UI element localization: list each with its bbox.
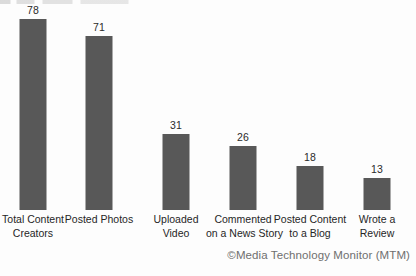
bar-rect[interactable] [297,166,324,210]
plot-area: 78 71 31 26 18 13 [0,0,416,210]
x-axis-label: Posted Content to a Blog [273,212,347,240]
x-axis-label: Commented on a News Story [206,212,280,240]
x-axis-label: Posted Photos [62,212,136,226]
bar-value-label: 13 [371,163,383,175]
x-axis-label-line: Uploaded [139,212,213,226]
bar-value-label: 78 [27,4,39,16]
bar-chart: 78 71 31 26 18 13 Total Content Creators [0,0,416,276]
bar-value-label: 26 [237,131,249,143]
bar-value-label: 18 [304,151,316,163]
x-axis-label-line: Video [139,226,213,240]
x-axis-label-line: on a News Story [206,226,280,240]
x-axis-label: Wrote a Review [340,212,414,240]
bar-rect[interactable] [20,19,47,210]
x-axis-labels: Total Content Creators Posted Photos Upl… [0,212,416,248]
x-axis-label-line: Total Content [0,212,70,226]
bar-group: 31 [143,0,209,210]
bar-value-label: 71 [93,21,105,33]
x-axis-label-line: Creators [0,226,70,240]
x-axis-label-line: Posted Content [273,212,347,226]
bar-group: 26 [210,0,276,210]
bar-group: 18 [277,0,343,210]
bar-rect[interactable] [364,178,391,210]
bar-group: 71 [66,0,132,210]
attribution-text: ©Media Technology Monitor (MTM) [227,249,410,261]
x-axis-label-line: to a Blog [273,226,347,240]
x-axis-label-line: Posted Photos [62,212,136,226]
bar-rect[interactable] [230,146,257,210]
x-axis-label: Total Content Creators [0,212,70,240]
x-axis-label-line: Wrote a [340,212,414,226]
bar-group: 13 [344,0,410,210]
bar-group: 78 [0,0,66,210]
x-axis-label-line: Review [340,226,414,240]
bar-rect[interactable] [86,36,113,210]
bar-rect[interactable] [163,134,190,210]
bar-value-label: 31 [170,119,182,131]
x-axis-label: Uploaded Video [139,212,213,240]
x-axis-label-line: Commented [206,212,280,226]
